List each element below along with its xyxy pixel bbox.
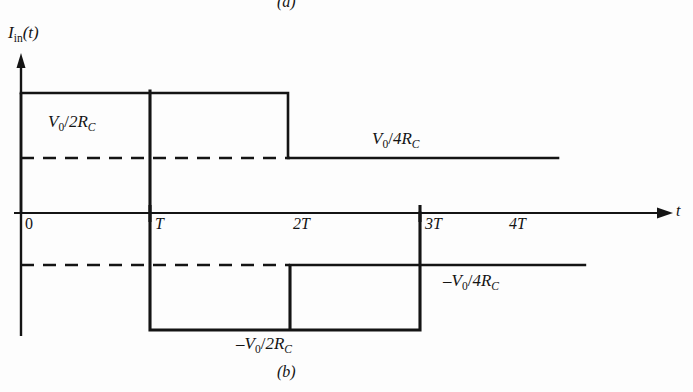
t-axis-label: t <box>676 203 680 219</box>
y-axis-label: Iin(t) <box>8 24 39 41</box>
level-label-positive-half: V0/2RC <box>48 113 96 130</box>
waveform-canvas <box>0 0 693 392</box>
level-neg-half-denominator-sub: C <box>284 343 292 356</box>
x-tick-label-0: 0 <box>25 216 33 232</box>
level-pos-half-denominator: 2R <box>69 112 88 131</box>
panel-label-b: (b) <box>277 364 296 380</box>
level-neg-half-numerator: V <box>245 334 255 353</box>
level-neg-quarter-minus: – <box>443 271 452 290</box>
level-pos-quarter-denominator-sub: C <box>412 138 420 151</box>
level-label-negative-half: –V0/2RC <box>236 335 292 352</box>
y-axis-label-subscript: in <box>14 32 23 45</box>
level-pos-half-numerator: V <box>48 112 58 131</box>
level-neg-half-minus: – <box>236 334 245 353</box>
x-tick-label-3T: 3T <box>425 216 442 232</box>
level-pos-quarter-numerator: V <box>372 129 382 148</box>
waveform-negative <box>150 91 420 330</box>
x-tick-label-4T: 4T <box>509 216 526 232</box>
level-label-negative-quarter: –V0/4RC <box>443 272 499 289</box>
y-axis-label-argument: (t) <box>23 23 39 42</box>
x-tick-label-2T: 2T <box>293 216 310 232</box>
level-pos-half-denominator-sub: C <box>88 121 96 134</box>
level-pos-quarter-denominator: 4R <box>393 129 412 148</box>
level-neg-half-denominator: 2R <box>265 334 284 353</box>
panel-label-a: (a) <box>277 0 296 10</box>
waveform-figure: (a) (b) Iin(t) t V0/2RC V0/4RC –V0/2RC –… <box>0 0 693 392</box>
x-tick-label-T: T <box>155 216 164 232</box>
waveform-positive <box>21 93 558 158</box>
level-neg-quarter-denominator-sub: C <box>491 280 499 293</box>
t-axis <box>14 208 673 219</box>
level-label-positive-quarter: V0/4RC <box>372 130 420 147</box>
level-neg-quarter-numerator: V <box>452 271 462 290</box>
level-neg-quarter-denominator: 4R <box>472 271 491 290</box>
